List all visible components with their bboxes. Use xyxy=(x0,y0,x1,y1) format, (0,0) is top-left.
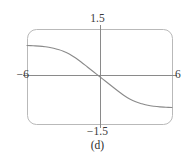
x-axis-min-label: −6 xyxy=(7,69,29,81)
y-axis-max-label: 1.5 xyxy=(0,13,195,25)
figure-panel: 1.5 −1.5 −6 6 (d) xyxy=(0,0,195,158)
y-axis-min-label: −1.5 xyxy=(0,126,195,138)
x-axis-max-label: 6 xyxy=(175,69,193,81)
curve-path xyxy=(27,45,172,107)
figure-caption: (d) xyxy=(0,140,195,152)
